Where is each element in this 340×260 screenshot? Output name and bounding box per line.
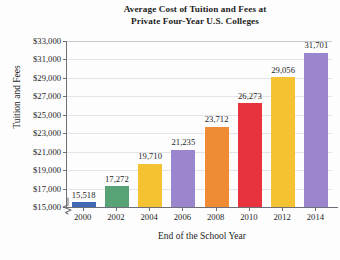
x-axis-tick-mark — [182, 207, 183, 211]
x-axis-tick-label: 2004 — [141, 212, 158, 222]
x-axis-tick-label: 2012 — [274, 212, 291, 222]
y-axis-tick-mark — [63, 96, 67, 97]
y-axis-title: Tuition and Fees — [12, 42, 22, 152]
y-axis-tick-label: $17,000 — [33, 184, 61, 194]
bar: 29,056 — [271, 77, 295, 207]
y-axis-tick-mark — [63, 78, 67, 79]
chart-title-line-2: Private Four-Year U.S. Colleges — [52, 16, 338, 28]
x-axis-title: End of the School Year — [66, 231, 338, 241]
bar-value-label: 29,056 — [271, 65, 295, 75]
bar-value-label: 19,710 — [138, 151, 162, 161]
x-axis-tick-label: 2008 — [207, 212, 224, 222]
x-axis-tick-mark — [315, 207, 316, 211]
y-axis-tick-label: $23,000 — [33, 128, 61, 138]
x-axis-tick-label: 2000 — [74, 212, 91, 222]
y-axis-tick-label: $33,000 — [33, 36, 61, 46]
bar-value-label: 21,235 — [172, 137, 196, 147]
chart-title-line-1: Average Cost of Tuition and Fees at — [124, 4, 267, 14]
y-axis-tick-mark — [63, 189, 67, 190]
x-axis-line — [66, 207, 338, 208]
y-axis-tick-label: $27,000 — [33, 91, 61, 101]
x-axis-tick-label: 2010 — [240, 212, 257, 222]
y-axis-tick-label: $19,000 — [33, 165, 61, 175]
bar: 19,710 — [138, 164, 162, 207]
y-axis-tick-label: $21,000 — [33, 147, 61, 157]
x-axis-tick-label: 2006 — [174, 212, 191, 222]
chart-title: Average Cost of Tuition and Fees at Priv… — [52, 4, 338, 27]
bar-value-label: 31,701 — [305, 40, 329, 50]
plot-top-rule — [67, 41, 332, 42]
y-axis-tick-mark — [63, 152, 67, 153]
y-axis-tick-mark — [63, 170, 67, 171]
x-axis-tick-mark — [116, 207, 117, 211]
y-axis-tick-mark — [63, 59, 67, 60]
y-axis-tick-mark — [63, 41, 67, 42]
bar: 23,712 — [205, 127, 229, 207]
x-axis-tick-mark — [249, 207, 250, 211]
bar-value-label: 26,273 — [238, 91, 262, 101]
bar-chart-figure: Average Cost of Tuition and Fees at Priv… — [0, 0, 340, 260]
y-axis-tick-mark — [63, 115, 67, 116]
plot-area: $15,000$17,000$19,000$21,000$23,000$25,0… — [66, 41, 332, 207]
x-axis-tick-label: 2014 — [307, 212, 324, 222]
gridline — [67, 59, 332, 60]
x-axis-tick-mark — [216, 207, 217, 211]
x-axis-tick-label: 2002 — [107, 212, 124, 222]
y-axis-tick-label: $15,000 — [33, 202, 61, 212]
y-axis-tick-label: $31,000 — [33, 54, 61, 64]
y-axis-tick-label: $25,000 — [33, 110, 61, 120]
bar-value-label: 23,712 — [205, 114, 229, 124]
x-axis-tick-mark — [149, 207, 150, 211]
bar: 26,273 — [238, 103, 262, 207]
bar: 21,235 — [171, 150, 195, 208]
bar: 31,701 — [304, 53, 328, 207]
x-axis-tick-mark — [282, 207, 283, 211]
y-axis-break-icon — [59, 196, 75, 216]
bar: 17,272 — [105, 186, 129, 207]
x-axis-tick-mark — [83, 207, 84, 211]
y-axis-tick-mark — [63, 133, 67, 134]
bar-value-label: 15,518 — [72, 190, 96, 200]
bar-value-label: 17,272 — [105, 174, 129, 184]
y-axis-tick-label: $29,000 — [33, 73, 61, 83]
